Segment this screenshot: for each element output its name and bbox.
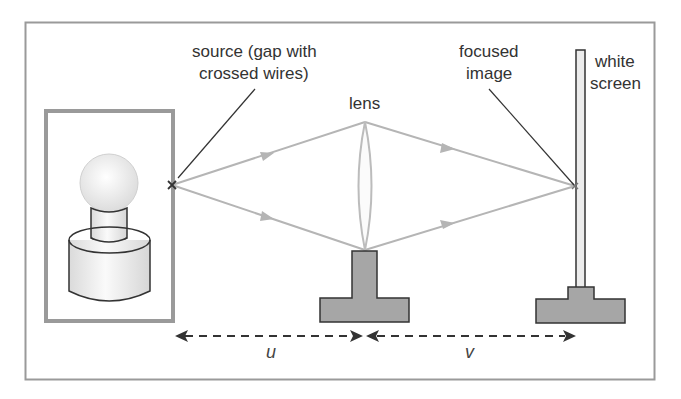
source-label-line2: crossed wires) <box>199 64 309 83</box>
bulb-icon <box>80 154 138 212</box>
distance-v-arrow <box>366 330 576 342</box>
source-pointer-line <box>178 89 255 178</box>
source-label-line1: source (gap with <box>192 42 317 61</box>
focused-image-pointer-line <box>489 89 574 185</box>
optics-diagram: source (gap with crossed wires) lens foc… <box>0 0 681 399</box>
white-screen-label-line2: screen <box>590 74 641 93</box>
screen-stand <box>536 287 625 323</box>
v-label: v <box>465 342 475 362</box>
focused-image-label-line1: focused <box>459 42 519 61</box>
bulb-neck <box>91 208 127 242</box>
convex-lens <box>359 122 372 250</box>
light-rays <box>172 122 575 250</box>
white-screen-label-line1: white <box>594 52 635 71</box>
lamp-housing <box>46 111 173 321</box>
focused-image-label-line2: image <box>466 64 512 83</box>
white-screen <box>576 50 585 288</box>
lens-label: lens <box>349 94 380 113</box>
lens-stand <box>320 251 409 322</box>
u-label: u <box>266 342 276 362</box>
distance-u-arrow <box>175 330 363 342</box>
